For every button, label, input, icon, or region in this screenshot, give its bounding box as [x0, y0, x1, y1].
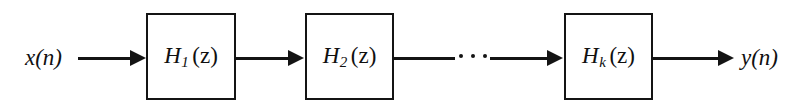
wire-block-1-to-block-2 — [236, 57, 289, 60]
ellipsis-dot — [471, 54, 475, 58]
wire-block-2-to-ellipsis — [394, 57, 455, 60]
filter-block-1-label: H1(z) — [148, 43, 234, 70]
ellipsis-dots — [458, 54, 488, 64]
output-signal-label: y(n) — [741, 46, 778, 69]
filter-block-1-argument: (z) — [190, 42, 218, 67]
input-signal-label: x(n) — [25, 46, 62, 69]
wire-input-to-block-1 — [78, 57, 132, 60]
filter-block-3-base: H — [582, 42, 599, 67]
cascade-block-diagram: x(n) H1(z) H2(z) Hk(z) y(n) — [0, 0, 799, 107]
filter-block-3-label: Hk(z) — [566, 43, 651, 70]
arrowhead-block-3-to-output — [718, 50, 734, 66]
filter-block-2-base: H — [323, 42, 340, 67]
filter-block-2-subscript: 2 — [339, 54, 349, 70]
filter-block-3-argument: (z) — [607, 42, 635, 67]
filter-block-3: Hk(z) — [564, 13, 653, 100]
wire-ellipsis-to-block-3 — [490, 57, 548, 60]
filter-block-2-argument: (z) — [349, 42, 377, 67]
filter-block-1: H1(z) — [146, 13, 236, 100]
filter-block-2: H2(z) — [305, 13, 394, 100]
ellipsis-dot — [459, 54, 463, 58]
filter-block-1-base: H — [164, 42, 181, 67]
wire-block-3-to-output — [653, 57, 719, 60]
arrowhead-input-to-block-1 — [130, 50, 146, 66]
filter-block-2-label: H2(z) — [307, 43, 392, 70]
arrowhead-block-1-to-block-2 — [288, 50, 304, 66]
arrowhead-ellipsis-to-block-3 — [547, 50, 563, 66]
filter-block-1-subscript: 1 — [181, 54, 191, 70]
ellipsis-dot — [483, 54, 487, 58]
